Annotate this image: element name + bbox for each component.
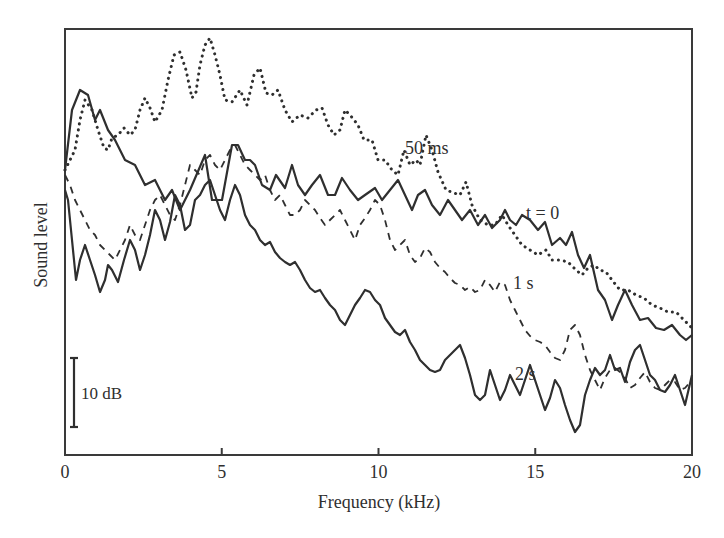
curves (65, 38, 692, 432)
series-label-2s: 2 s (515, 364, 536, 384)
series-label-t0: t = 0 (526, 203, 559, 223)
x-tick-5: 5 (217, 462, 226, 482)
curve-2s (65, 180, 692, 432)
spectrum-chart: 10 dB 0 5 10 15 20 Frequency (kHz) Sound… (0, 0, 724, 538)
curve-50ms (65, 38, 692, 328)
x-tick-10: 10 (370, 462, 388, 482)
scale-bar-label: 10 dB (81, 384, 122, 403)
series-label-50ms: 50 ms (405, 138, 449, 158)
scale-bar-10db (70, 358, 78, 427)
series-label-1s: 1 s (513, 273, 534, 293)
plot-frame (65, 29, 692, 455)
x-axis-ticks (222, 448, 536, 455)
x-tick-20: 20 (683, 462, 701, 482)
x-tick-0: 0 (61, 462, 70, 482)
x-tick-15: 15 (526, 462, 544, 482)
y-axis-label: Sound level (31, 202, 51, 288)
x-axis-label: Frequency (kHz) (318, 492, 440, 513)
